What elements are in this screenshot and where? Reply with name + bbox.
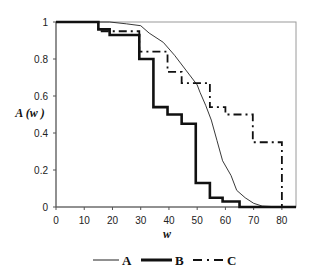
x-tick-label: 30 [135,215,147,226]
legend-label-b: B [175,253,184,268]
series-lines [56,22,296,207]
series-b-line [56,22,296,207]
survival-chart: 0102030405060708000.20.40.60.81 w A (w )… [0,0,313,280]
x-tick-label: 10 [79,215,91,226]
x-tick-label: 0 [53,215,59,226]
axes: 0102030405060708000.20.40.60.81 [34,17,296,226]
y-tick-label: 0 [42,202,48,213]
x-tick-label: 40 [163,215,175,226]
x-tick-label: 70 [248,215,260,226]
x-tick-label: 60 [220,215,232,226]
x-tick-label: 20 [107,215,119,226]
y-tick-label: 1 [42,17,48,28]
y-axis-title: A (w ) [14,106,44,120]
y-tick-label: 0.8 [34,54,48,65]
x-axis-title: w [163,227,172,241]
legend: A B C [93,253,236,268]
y-tick-label: 0.4 [34,128,48,139]
legend-label-c: C [227,253,236,268]
y-tick-label: 0.2 [34,165,48,176]
x-tick-label: 80 [276,215,288,226]
legend-label-a: A [122,253,132,268]
y-tick-label: 0.6 [34,91,48,102]
x-tick-label: 50 [192,215,204,226]
